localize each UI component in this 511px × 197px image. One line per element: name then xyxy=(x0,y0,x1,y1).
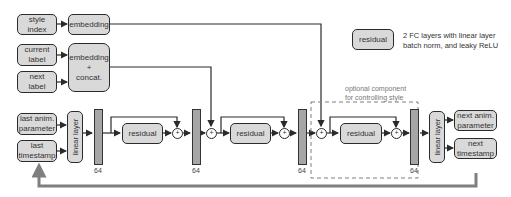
last-anim-parameter-box: last anim. parameter xyxy=(17,113,57,135)
feature-bar-3 xyxy=(298,109,307,165)
residual-block-3: residual xyxy=(340,123,382,144)
add-node-4: + xyxy=(316,128,327,139)
add-node-5: + xyxy=(391,128,402,139)
style-index-box: style index xyxy=(17,14,57,35)
dim-label-3: 64 xyxy=(298,167,306,174)
linear-layer-out-label: linear layer xyxy=(433,119,442,156)
label-embedding-concat-box: embedding + concat. xyxy=(68,43,110,92)
feature-bar-1 xyxy=(94,109,103,165)
current-label-box: current label xyxy=(17,44,57,66)
next-timestamp-box: next timestamp xyxy=(454,138,497,159)
dim-label-2: 64 xyxy=(192,167,200,174)
residual-block-1: residual xyxy=(122,123,163,144)
linear-layer-in-label: linear layer xyxy=(71,119,80,156)
add-node-1: + xyxy=(172,128,183,139)
dim-label-4: 64 xyxy=(410,167,418,174)
next-anim-parameter-box: next anim. parameter xyxy=(454,110,497,131)
linear-layer-out: linear layer xyxy=(429,111,445,163)
linear-layer-in: linear layer xyxy=(67,111,83,163)
feature-bar-4 xyxy=(410,109,419,165)
feature-bar-2 xyxy=(192,109,201,165)
next-label-box: next label xyxy=(17,71,57,93)
residual-block-2: residual xyxy=(230,123,271,144)
add-node-2: + xyxy=(206,128,217,139)
dim-label-1: 64 xyxy=(94,167,102,174)
optional-component-label: optional component for controlling style xyxy=(345,84,406,102)
legend-residual-box: residual xyxy=(352,29,394,50)
last-timestamp-box: last timestamp xyxy=(17,140,57,162)
add-node-3: + xyxy=(279,128,290,139)
legend-description: 2 FC layers with linear layer batch norm… xyxy=(403,31,498,51)
style-embedding-box: embedding xyxy=(68,14,110,35)
